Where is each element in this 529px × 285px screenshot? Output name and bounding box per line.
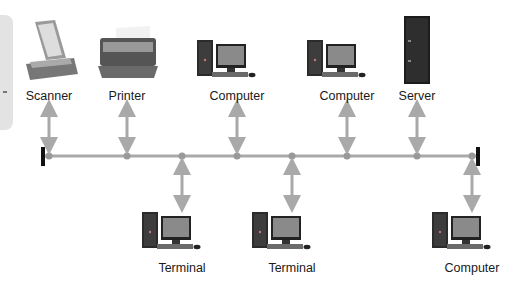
device-label-terminal: Terminal: [247, 261, 337, 275]
device-label-server: Server: [372, 89, 462, 103]
computer-icon: [432, 212, 491, 249]
scanner-icon: [26, 20, 78, 80]
device-label-scanner: Scanner: [4, 89, 94, 103]
bus-network: [0, 0, 529, 285]
printer-icon: [98, 26, 158, 78]
device-label-computer: Computer: [427, 261, 517, 275]
device-label-computer: Computer: [192, 89, 282, 103]
computer-icon: [307, 40, 366, 77]
computer-icon: [142, 212, 201, 249]
computer-icon: [197, 40, 256, 77]
device-label-terminal: Terminal: [137, 261, 227, 275]
computer-icon: [252, 212, 311, 249]
server-icon: [404, 16, 430, 84]
device-label-printer: Printer: [82, 89, 172, 103]
